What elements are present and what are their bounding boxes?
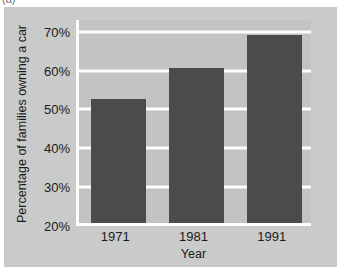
x-axis-tick-label: 1971 [101, 229, 130, 244]
bar [247, 35, 302, 224]
x-axis-tick-label: 1991 [257, 229, 286, 244]
plot-area [76, 20, 311, 226]
y-axis-tick-label: 40% [44, 141, 70, 156]
y-axis-tick-label: 20% [44, 219, 70, 234]
y-axis-tick-label: 60% [44, 63, 70, 78]
y-axis-tick-label: 30% [44, 180, 70, 195]
y-axis-tick-labels: 20%30%40%50%60%70% [28, 7, 70, 267]
figure-label: (a) [2, 0, 15, 5]
bar-chart-figure: (a) Percentage of families owning a car … [0, 0, 339, 269]
chart-panel: Percentage of families owning a car 20%3… [4, 7, 337, 267]
bar-series [79, 20, 311, 223]
y-axis-tick-label: 50% [44, 102, 70, 117]
bar [91, 99, 146, 223]
bar [169, 68, 224, 223]
y-axis-title: Percentage of families owning a car [15, 14, 29, 234]
x-axis-tick-label: 1981 [179, 229, 208, 244]
x-axis-tick-labels: 197119811991 [76, 229, 311, 247]
y-axis-tick-label: 70% [44, 24, 70, 39]
x-axis-title: Year [76, 247, 311, 261]
